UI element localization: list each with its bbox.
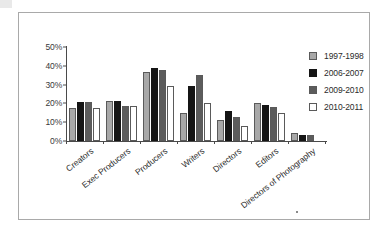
bar: [159, 70, 166, 141]
bar: [180, 113, 187, 141]
bar-group: [180, 47, 213, 141]
bar: [167, 86, 174, 141]
x-axis-label: Editors: [254, 146, 280, 170]
x-tick-mark: [103, 141, 104, 144]
legend-item[interactable]: 1997-1998: [309, 47, 387, 64]
scan-artifact: [0, 0, 12, 8]
bar: [130, 106, 137, 141]
bar: [241, 126, 248, 141]
legend-swatch: [309, 103, 317, 111]
bar-group: [69, 47, 102, 141]
legend-swatch: [309, 69, 317, 77]
x-axis-label: Writers: [179, 146, 206, 170]
bar: [114, 101, 121, 141]
bar-group: [254, 47, 287, 141]
y-tick-mark: [63, 122, 66, 123]
legend-label: 2010-2011: [324, 102, 363, 112]
bar: [69, 108, 76, 141]
bar: [143, 72, 150, 141]
x-label-anchor: Writers: [200, 146, 201, 147]
bar: [270, 107, 277, 141]
bar-group: [217, 47, 250, 141]
y-tick-label: 30%: [46, 80, 62, 90]
bar: [225, 111, 232, 141]
x-label-anchor: Creators: [89, 146, 90, 147]
bar: [307, 135, 314, 141]
x-tick-mark: [325, 141, 326, 144]
y-tick-mark: [63, 103, 66, 104]
legend-swatch: [309, 52, 317, 60]
x-tick-mark: [177, 141, 178, 144]
plot-area: 50%40%30%20%10%0%: [66, 47, 325, 141]
y-tick-label: 10%: [46, 117, 62, 127]
bar: [291, 133, 298, 141]
chart-legend: 1997-19982006-20072009-20102010-2011: [309, 47, 387, 115]
y-tick-mark: [63, 47, 66, 48]
bar: [233, 117, 240, 141]
bar: [204, 103, 211, 141]
y-tick-mark: [63, 84, 66, 85]
y-tick-label: 50%: [46, 42, 62, 52]
bar: [262, 105, 269, 141]
legend-label: 2009-2010: [324, 85, 364, 95]
x-tick-mark: [214, 141, 215, 144]
x-axis-label: Directors of Photography: [239, 146, 317, 210]
x-axis-label: Directors: [211, 146, 243, 174]
legend-item[interactable]: 2006-2007: [309, 64, 387, 81]
bar: [299, 135, 306, 141]
y-tick-label: 40%: [46, 61, 62, 71]
x-label-anchor: Directors of Photography: [311, 146, 312, 147]
legend-label: 1997-1998: [324, 51, 364, 61]
y-tick-label: 0%: [50, 136, 62, 146]
x-tick-mark: [140, 141, 141, 144]
bar: [254, 103, 261, 141]
bar: [196, 75, 203, 141]
x-axis-label: Creators: [64, 146, 95, 173]
legend-item[interactable]: 2010-2011: [309, 98, 387, 115]
chart-frame: 50%40%30%20%10%0% CreatorsExec Producers…: [18, 12, 370, 220]
bar: [122, 106, 129, 141]
x-label-anchor: Exec Producers: [126, 146, 127, 147]
x-tick-mark: [251, 141, 252, 144]
bar: [217, 120, 224, 141]
bar: [188, 86, 195, 141]
x-label-anchor: Editors: [274, 146, 275, 147]
x-tick-mark: [288, 141, 289, 144]
bar: [85, 102, 92, 141]
x-label-anchor: Directors: [237, 146, 238, 147]
y-tick-mark: [63, 65, 66, 66]
y-tick-label: 20%: [46, 98, 62, 108]
x-axis-label: Producers: [133, 146, 169, 177]
bar: [106, 101, 113, 141]
bar: [77, 102, 84, 141]
scan-speck: [296, 211, 298, 213]
bar-group: [106, 47, 139, 141]
bar-group: [143, 47, 176, 141]
legend-label: 2006-2007: [324, 68, 364, 78]
bar: [93, 108, 100, 141]
legend-item[interactable]: 2009-2010: [309, 81, 387, 98]
bar: [151, 68, 158, 141]
legend-swatch: [309, 86, 317, 94]
x-tick-mark: [66, 141, 67, 144]
bar: [278, 113, 285, 141]
x-label-anchor: Producers: [163, 146, 164, 147]
